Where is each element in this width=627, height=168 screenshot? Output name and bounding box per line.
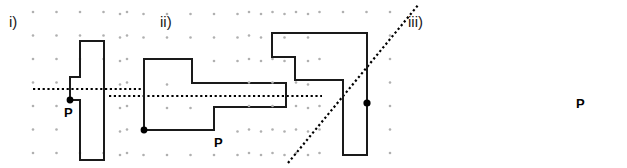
figure-label-iii: iii) <box>408 14 423 29</box>
figure-iii-drawing <box>0 0 627 168</box>
mirror-line-iii <box>288 4 419 163</box>
shape-outline-iii <box>272 33 367 155</box>
figure-panel-iii: iii) <box>402 0 627 168</box>
point-p-marker-iii <box>363 99 370 106</box>
worksheet-canvas: i) <box>0 0 627 168</box>
point-p-label-iii: P <box>576 97 585 110</box>
